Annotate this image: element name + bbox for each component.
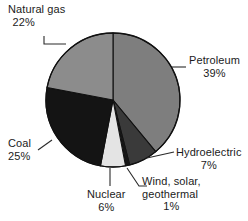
- pie-label-natural-gas-value: 22%: [0, 16, 65, 29]
- pie-label-wind-value: 1%: [142, 200, 201, 213]
- pie-label-coal: Coal 25%: [8, 137, 31, 162]
- pie-label-hydroelectric: Hydroelectric 7%: [176, 146, 242, 171]
- pie-label-wind-name-line1: Wind, solar,: [142, 175, 201, 188]
- pie-label-wind-solar-geothermal: Wind, solar, geothermal 1%: [142, 175, 201, 213]
- leader-line-natural-gas: [44, 36, 66, 44]
- leader-line-coal: [38, 140, 52, 150]
- pie-label-wind-name-line2: geothermal: [142, 188, 201, 201]
- pie-label-petroleum: Petroleum 39%: [189, 54, 240, 79]
- pie-label-hydroelectric-value: 7%: [176, 159, 242, 172]
- pie-label-petroleum-value: 39%: [189, 67, 240, 80]
- pie-label-natural-gas: Natural gas 22%: [8, 3, 65, 28]
- pie-slice-coal[interactable]: [46, 87, 113, 165]
- pie-label-natural-gas-name: Natural gas: [8, 3, 65, 16]
- pie-label-hydroelectric-name: Hydroelectric: [176, 146, 242, 159]
- pie-label-coal-value: 25%: [8, 150, 31, 163]
- pie-label-nuclear-value: 6%: [87, 201, 126, 214]
- pie-label-nuclear: Nuclear 6%: [87, 188, 126, 213]
- pie-chart-figure: Natural gas 22% Petroleum 39% Coal 25% H…: [0, 0, 248, 221]
- pie-label-coal-name: Coal: [8, 137, 31, 150]
- pie-label-nuclear-name: Nuclear: [87, 188, 126, 201]
- pie-label-petroleum-name: Petroleum: [189, 54, 240, 67]
- pie-slices: [46, 33, 180, 167]
